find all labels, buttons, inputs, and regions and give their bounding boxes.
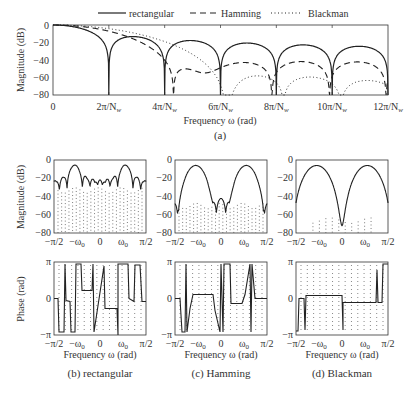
xtick: −π/2 xyxy=(45,338,63,349)
panel-mag-d: 0−20−40−60−80−π/2−ω00ω0π/2 xyxy=(277,154,394,249)
xtick: −ω0 xyxy=(190,236,206,249)
ytick: −20 xyxy=(277,172,293,183)
ytick: 0 xyxy=(44,20,49,31)
legend-blackman: Blackman xyxy=(308,8,349,19)
caption-a: (a) xyxy=(214,129,227,142)
xtick: 0 xyxy=(219,236,224,247)
xtick: 0 xyxy=(219,338,224,349)
xtick: −π/2 xyxy=(166,236,184,247)
caption-d: (d) Blackman xyxy=(312,367,373,380)
magnitude-curve xyxy=(54,165,146,189)
magnitude-curve xyxy=(175,165,267,212)
xtick: 0 xyxy=(98,338,103,349)
ytick: −60 xyxy=(156,209,172,220)
xtick: −π/2 xyxy=(287,338,305,349)
xtick: π/2 xyxy=(261,338,274,349)
xtick: 0 xyxy=(98,236,103,247)
ytick: 0 xyxy=(288,154,293,165)
y-axis-label: Magnitude (dB) xyxy=(15,28,27,92)
ytick: 0 xyxy=(288,293,293,304)
xtick: 2π/Nw xyxy=(96,101,121,114)
caption-c: (c) Hamming xyxy=(192,367,251,380)
x-axis-label-b: Frequency ω (rad) xyxy=(63,349,136,361)
ytick: 0 xyxy=(167,154,172,165)
ytick: π xyxy=(288,256,293,267)
ytick: −40 xyxy=(33,55,49,66)
phase-curve xyxy=(54,264,146,335)
y-axis-label-phase: Phase (rad) xyxy=(15,276,27,321)
ytick: π xyxy=(167,256,172,267)
ytick: −40 xyxy=(35,191,51,202)
xtick: 0 xyxy=(51,101,56,112)
panel-mag-c: 0−20−40−60−80−π/2−ω00ω0π/2 xyxy=(156,154,273,249)
panel-phase-b: π0−π−π/2−ω00ω0π/2 xyxy=(40,256,152,351)
phase-curve xyxy=(296,264,388,331)
legend: rectangular Hamming Blackman xyxy=(98,8,349,19)
panel-mag-b: 0−20−40−60−80−π/2−ω00ω0π/2 xyxy=(35,154,152,249)
x-axis-label-c: Frequency ω (rad) xyxy=(184,349,257,361)
ytick: −80 xyxy=(33,89,49,100)
plot-a: 0 −20 −40 −60 −80 Magnitude (dB) 02π/Nw4… xyxy=(15,20,403,142)
xtick: 0 xyxy=(340,338,345,349)
ytick: π xyxy=(46,256,51,267)
legend-rectangular: rectangular xyxy=(129,8,175,19)
xtick: 4π/Nw xyxy=(152,101,177,114)
x-axis-label: Frequency ω (rad) xyxy=(183,115,256,127)
xtick: ω0 xyxy=(360,236,371,249)
xtick: 8π/Nw xyxy=(264,101,289,114)
xtick: −π/2 xyxy=(166,338,184,349)
xtick: 0 xyxy=(340,236,345,247)
xtick: ω0 xyxy=(239,236,250,249)
xtick: −π/2 xyxy=(287,236,305,247)
ytick: −60 xyxy=(33,72,49,83)
panel-phase-c: π0−π−π/2−ω00ω0π/2 xyxy=(161,256,273,351)
xtick: ω0 xyxy=(118,236,129,249)
ytick: −40 xyxy=(277,191,293,202)
panel-phase-d: π0−π−π/2−ω00ω0π/2 xyxy=(282,256,394,351)
ytick: 0 xyxy=(167,293,172,304)
xtick: π/2 xyxy=(140,236,153,247)
xtick: −ω0 xyxy=(69,236,85,249)
magnitude-curve xyxy=(296,166,388,226)
y-axis-label-mag: Magnitude (dB) xyxy=(15,165,27,229)
x-axis-label-d: Frequency ω (rad) xyxy=(305,349,378,361)
legend-hamming: Hamming xyxy=(221,8,261,19)
xtick: π/2 xyxy=(140,338,153,349)
xtick: −π/2 xyxy=(45,236,63,247)
caption-b: (b) rectangular xyxy=(67,367,132,380)
ytick: −20 xyxy=(35,172,51,183)
ytick: −20 xyxy=(156,172,172,183)
xtick: 12π/Nw xyxy=(373,101,403,114)
xtick: π/2 xyxy=(382,236,395,247)
xtick: 10π/Nw xyxy=(317,101,347,114)
curves-a xyxy=(53,25,388,95)
subplots: 0−20−40−60−80−π/2−ω00ω0π/2π0−π−π/2−ω00ω0… xyxy=(35,154,394,351)
xtick: −ω0 xyxy=(311,236,327,249)
ytick: −60 xyxy=(35,209,51,220)
phase-curve xyxy=(175,264,267,332)
ytick: −60 xyxy=(277,209,293,220)
xtick: π/2 xyxy=(261,236,274,247)
xtick: π/2 xyxy=(382,338,395,349)
xtick: 6π/Nw xyxy=(208,101,233,114)
ytick: 0 xyxy=(46,154,51,165)
ytick: −40 xyxy=(156,191,172,202)
ytick: −20 xyxy=(33,37,49,48)
ytick: 0 xyxy=(46,293,51,304)
figure: rectangular Hamming Blackman 0 −20 −40 −… xyxy=(0,0,412,393)
curve-rect xyxy=(53,25,388,95)
